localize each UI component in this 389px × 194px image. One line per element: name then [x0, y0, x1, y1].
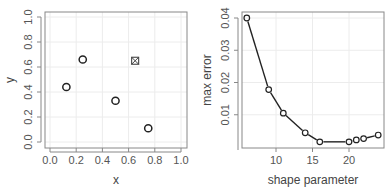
scatter-plot-panel: 0.00.20.40.60.81.0 0.00.20.40.60.81.0 x …	[3, 9, 189, 187]
scatter-grid	[45, 12, 187, 148]
scatter-x-axis-title: x	[113, 173, 119, 187]
scatter-y-tick-label: 0.4	[22, 84, 34, 99]
scatter-point-marker	[145, 125, 152, 132]
scatter-x-tick-label: 0.0	[42, 154, 57, 166]
error-x-axis-title: shape parameter	[268, 173, 359, 187]
scatter-y-tick-label: 0.0	[22, 134, 34, 149]
error-point-marker	[302, 130, 308, 136]
error-plot-panel: 101520 0.010.020.030.04 shape parameter …	[200, 7, 384, 187]
error-y-tick-label: 0.01	[219, 104, 231, 125]
scatter-point-marker	[112, 97, 119, 104]
error-point-marker	[361, 136, 367, 142]
square-cross-marker	[132, 57, 139, 64]
scatter-plot-frame	[45, 12, 187, 148]
error-y-axis-title: max error	[200, 54, 214, 105]
scatter-point-marker	[63, 83, 70, 90]
scatter-y-axis: 0.00.20.40.60.81.0	[22, 9, 41, 149]
error-line-segment	[286, 116, 303, 131]
chart-figure: 0.00.20.40.60.81.0 0.00.20.40.60.81.0 x …	[0, 0, 389, 194]
scatter-y-tick-label: 0.6	[22, 59, 34, 74]
error-x-tick-label: 15	[306, 154, 318, 166]
error-y-axis: 0.010.020.030.04	[219, 7, 238, 150]
error-point-marker	[354, 137, 360, 143]
scatter-point-marker	[79, 56, 86, 63]
error-y-tick-label: 0.03	[219, 40, 231, 61]
error-line-segment	[367, 136, 375, 138]
scatter-x-tick-label: 1.0	[173, 154, 188, 166]
scatter-y-tick-label: 1.0	[22, 9, 34, 24]
scatter-x-tick-label: 0.6	[121, 154, 136, 166]
scatter-x-tick-label: 0.2	[69, 154, 84, 166]
error-grid	[242, 12, 384, 148]
error-point-marker	[266, 87, 272, 93]
scatter-y-axis-title: y	[3, 77, 17, 83]
scatter-y-tick-label: 0.2	[22, 109, 34, 124]
error-x-axis: 101520	[270, 148, 355, 166]
error-line-segment	[248, 21, 268, 86]
scatter-y-tick-label: 0.8	[22, 34, 34, 49]
error-point-marker	[375, 132, 381, 138]
scatter-x-axis: 0.00.20.40.60.81.0	[42, 148, 188, 166]
error-point-marker	[317, 139, 323, 145]
error-x-tick-label: 20	[343, 154, 355, 166]
error-y-tick-label: 0.04	[219, 7, 231, 28]
scatter-x-tick-label: 0.8	[147, 154, 162, 166]
scatter-x-tick-label: 0.4	[95, 154, 110, 166]
error-x-tick-label: 10	[270, 154, 282, 166]
error-y-tick-label: 0.02	[219, 72, 231, 93]
